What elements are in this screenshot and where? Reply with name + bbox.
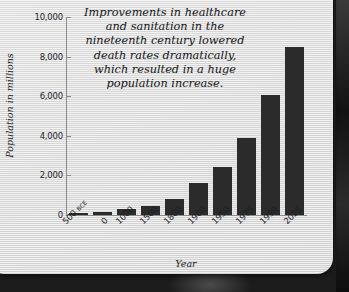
bar-slot: [162, 17, 186, 215]
plot-area: 10,0008,0006,0004,0002,0000: [66, 17, 306, 215]
x-axis-tick: 1975: [234, 217, 258, 257]
y-axis-title: Population in millions: [4, 41, 15, 171]
x-axis-tick: 1950: [210, 217, 234, 257]
bar-slot: [114, 17, 138, 215]
x-axis-tick: 1000: [114, 217, 138, 257]
y-axis-tick-label: 4,000: [40, 131, 66, 141]
bar-slot: [210, 17, 234, 215]
x-axis-title: Year: [66, 258, 306, 269]
chart-card: Improvements in healthcare and sanitatio…: [0, 0, 333, 274]
y-axis-tick: 6,000: [40, 91, 66, 101]
bar-slot: [186, 17, 210, 215]
x-axis-tick: 2025: [282, 217, 306, 257]
x-axis-tick-label: 0: [99, 215, 110, 226]
bar[interactable]: [261, 95, 280, 215]
y-axis-tick: 8,000: [40, 52, 66, 62]
x-axis-tick: 500 BCE: [66, 217, 90, 257]
x-axis-tick: 1900: [186, 217, 210, 257]
x-axis-tick: 1800: [162, 217, 186, 257]
x-axis-tick: 1999: [258, 217, 282, 257]
bar-series: [66, 17, 306, 215]
photo-backdrop-right-strip: [336, 0, 349, 292]
y-axis-tick: 2,000: [40, 170, 66, 180]
y-axis-tick: 10,000: [34, 12, 66, 22]
bar-slot: [282, 17, 306, 215]
y-axis-tick-label: 6,000: [40, 91, 66, 101]
bar-slot: [90, 17, 114, 215]
bar-slot: [258, 17, 282, 215]
x-axis-tick: 0: [90, 217, 114, 257]
bar-slot: [138, 17, 162, 215]
y-axis-tick: 4,000: [40, 131, 66, 141]
bar[interactable]: [237, 138, 256, 215]
x-axis-tick: 1500: [138, 217, 162, 257]
y-axis-tick-label: 8,000: [40, 52, 66, 62]
y-axis-tick-label: 2,000: [40, 170, 66, 180]
bar[interactable]: [285, 47, 304, 215]
bar-slot: [234, 17, 258, 215]
x-axis-ticks: 500 BCE010001500180019001950197519992025: [66, 217, 306, 257]
bar-slot: [66, 17, 90, 215]
y-axis-tick-label: 10,000: [34, 12, 66, 22]
